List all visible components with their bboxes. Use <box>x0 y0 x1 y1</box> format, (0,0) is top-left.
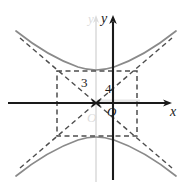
y-axis <box>109 15 117 180</box>
origin-label: O <box>107 105 116 118</box>
ghost-origin-label: O <box>87 111 96 124</box>
semi-minor-label: 3 <box>81 76 88 89</box>
ghost-y-axis-label: y <box>88 12 94 25</box>
graph-canvas <box>0 0 188 185</box>
x-axis <box>8 100 172 107</box>
semi-major-label: 4 <box>105 82 112 95</box>
hyperbola-figure: y y x O O 3 4 <box>0 0 188 185</box>
y-axis-label: y <box>101 12 107 26</box>
x-axis-label: x <box>170 105 176 119</box>
ghost-y-axis <box>93 15 99 182</box>
